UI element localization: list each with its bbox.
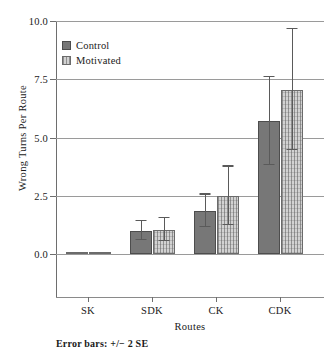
error-cap-lower	[263, 164, 274, 165]
x-axis-line	[56, 297, 324, 298]
y-tick-label: 10.0	[29, 16, 48, 27]
error-bar-note: Error bars: +/− 2 SE	[56, 338, 148, 349]
x-tick-mark	[152, 297, 153, 302]
legend-item-motivated: Motivated	[62, 54, 121, 66]
y-tick-label: 5.0	[34, 132, 48, 143]
error-bar	[269, 77, 270, 166]
legend-item-control: Control	[62, 39, 121, 51]
error-cap-lower	[286, 149, 297, 150]
y-tick-label: 7.5	[34, 74, 48, 85]
x-tick-mark	[280, 297, 281, 302]
legend-label: Motivated	[76, 55, 121, 66]
plot-area: 0.02.55.07.510.0 ControlMotivated	[56, 21, 312, 254]
x-tick-mark	[88, 297, 89, 302]
y-tick-mark	[50, 254, 56, 255]
gridline	[56, 254, 324, 255]
legend-label: Control	[76, 40, 110, 51]
x-tick-label-sk: SK	[81, 305, 95, 316]
error-cap-upper	[286, 28, 297, 29]
error-cap-upper	[263, 76, 274, 77]
y-tick-label: 2.5	[34, 190, 48, 201]
legend-swatch-control	[62, 41, 71, 50]
x-tick-label-ck: CK	[208, 305, 223, 316]
y-axis-label: Wrong Turns Per Route	[17, 85, 28, 191]
x-axis-label: Routes	[175, 321, 206, 332]
x-tick-label-sdk: SDK	[141, 305, 163, 316]
y-axis-label-container: Wrong Turns Per Route	[16, 21, 30, 254]
x-tick-label-cdk: CDK	[268, 305, 291, 316]
y-tick-label: 0.0	[34, 249, 48, 260]
legend-swatch-motivated	[62, 56, 71, 65]
x-tick-mark	[216, 297, 217, 302]
error-bar	[292, 29, 293, 150]
legend: ControlMotivated	[62, 39, 121, 69]
chart-figure: Wrong Turns Per Route 0.02.55.07.510.0 C…	[0, 0, 335, 362]
